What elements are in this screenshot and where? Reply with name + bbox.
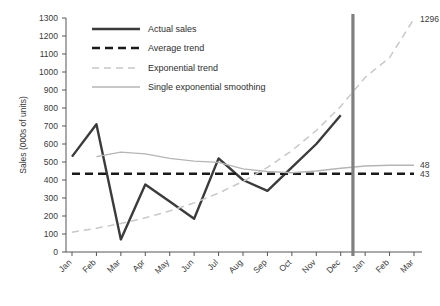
x-tick-label-mar-14: Mar bbox=[398, 257, 416, 275]
y-tick-label: 400 bbox=[44, 175, 58, 185]
x-tick-label-sep-8: Sep bbox=[251, 257, 269, 275]
x-tick-label-jan-12: Jan bbox=[350, 257, 367, 274]
series-line-actual-sales bbox=[72, 115, 341, 239]
y-tick-label: 1300 bbox=[39, 13, 58, 23]
y-tick-label: 1100 bbox=[40, 49, 59, 59]
y-tick-label: 500 bbox=[44, 157, 58, 167]
x-tick-label-apr-3: Apr bbox=[130, 257, 147, 274]
x-axis-ticks bbox=[72, 252, 414, 256]
y-tick-label: 1000 bbox=[39, 67, 58, 77]
y-axis-title: Sales (000s of units) bbox=[18, 96, 28, 174]
x-tick-label-nov-10: Nov bbox=[300, 257, 318, 275]
y-tick-label: 900 bbox=[44, 85, 58, 95]
annotation-layer: 12964843 bbox=[420, 14, 439, 179]
y-axis-ticks bbox=[62, 18, 66, 252]
x-tick-label-may-4: May bbox=[153, 257, 172, 276]
y-tick-label: 300 bbox=[44, 193, 58, 203]
series-layer bbox=[72, 19, 414, 240]
x-tick-label-jun-5: Jun bbox=[179, 257, 196, 274]
series-line-single-exponential-smoothing bbox=[96, 152, 414, 173]
legend-label-exponential-trend: Exponential trend bbox=[148, 63, 218, 73]
chart-canvas: 0 100 200 300 400 500 600 700 800 900 10… bbox=[0, 0, 440, 306]
legend-label-actual-sales: Actual sales bbox=[148, 24, 197, 34]
x-tick-label-jan-0: Jan bbox=[57, 257, 74, 274]
y-tick-label: 1200 bbox=[39, 31, 58, 41]
x-tick-label-dec-11: Dec bbox=[324, 257, 342, 275]
average-trend-endpoint: 43 bbox=[420, 169, 430, 179]
x-tick-label-jul-6: Jul bbox=[205, 257, 220, 272]
x-tick-label-mar-2: Mar bbox=[105, 257, 123, 275]
series-line-exponential-trend bbox=[72, 19, 414, 232]
exponential-trend-endpoint: 1296 bbox=[420, 14, 439, 24]
y-tick-label: 600 bbox=[44, 139, 58, 149]
legend-label-single-exponential-smoothing: Single exponential smoothing bbox=[148, 82, 266, 92]
x-tick-label-feb-1: Feb bbox=[80, 257, 98, 275]
x-axis-tick-labels: JanFebMarAprMayJunJulAugSepOctNovDecJanF… bbox=[57, 257, 416, 276]
sales-forecast-chart: 0 100 200 300 400 500 600 700 800 900 10… bbox=[0, 0, 440, 306]
y-tick-label: 0 bbox=[53, 247, 58, 257]
legend-label-average-trend: Average trend bbox=[148, 43, 204, 53]
x-tick-label-feb-13: Feb bbox=[374, 257, 392, 275]
x-tick-label-oct-9: Oct bbox=[277, 257, 294, 274]
y-tick-label: 200 bbox=[44, 211, 58, 221]
y-axis-tick-labels: 0 100 200 300 400 500 600 700 800 900 10… bbox=[39, 13, 58, 257]
x-tick-label-aug-7: Aug bbox=[227, 257, 245, 275]
y-tick-label: 100 bbox=[44, 229, 58, 239]
chart-legend: Actual sales Average trend Exponential t… bbox=[92, 24, 266, 92]
y-tick-label: 700 bbox=[44, 121, 58, 131]
y-tick-label: 800 bbox=[44, 103, 58, 113]
